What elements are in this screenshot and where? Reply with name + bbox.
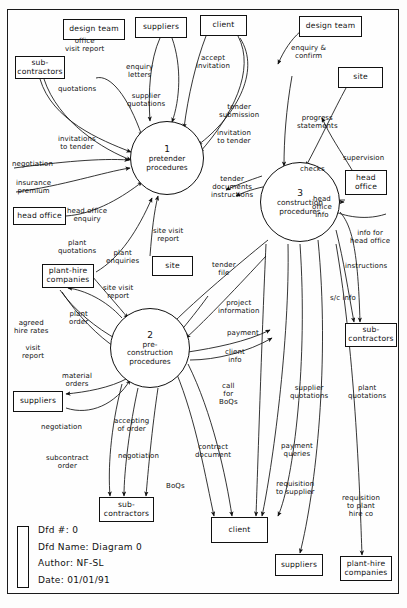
flow-label-instructions: instructions [345,263,387,271]
flow-label-head-office-info: head office info [312,196,332,219]
flow-label-enquiry-letters: enquiry letters [126,64,153,80]
entity-client-bottom[interactable]: client [211,517,268,543]
dfd-canvas: 1 pretender procedures 2 pre- constructi… [0,0,407,608]
flow-label-site-visit-report-upper: site visit report [153,228,183,244]
legend-dfd-number: Dfd #: 0 [38,522,142,539]
entity-plant-hire-companies-bottom[interactable]: plant-hire companies [340,556,392,581]
flow-label-accept-invitation: accept invitation [196,55,230,71]
flow-label-contract-document: contract document [195,444,231,460]
entity-suppliers-left[interactable]: suppliers [13,391,63,412]
flow-label-plant-order: plant order [69,311,88,327]
entity-label: plant-hire companies [344,560,387,577]
flow-label-info-for-head-office: info for head office [350,230,390,246]
flow-label-negotiation-subcontractors-lower: negotiation [118,453,159,461]
legend-rows: Dfd #: 0 Dfd Name: Diagram 0 Author: NF-… [38,522,142,588]
flow-label-insurance-premium: insurance premium [16,180,51,196]
entity-site-middle[interactable]: site [152,256,193,276]
process-1-number: 1 [164,144,170,154]
process-2-number: 2 [147,330,153,340]
flow-label-tender-submission: tender submission [219,104,259,120]
diagram-legend: Dfd #: 0 Dfd Name: Diagram 0 Author: NF-… [17,522,197,594]
flow-label-negotiation-suppliers: negotiation [41,424,82,432]
entity-label: sub- contractors [348,326,393,343]
entity-head-office-right[interactable]: head office [345,170,387,195]
entity-subcontractors-bottom[interactable]: sub- contractors [99,497,154,522]
flow-label-plant-quotations-lower: plant quotations [348,385,386,401]
flow-label-visit-report: visit report [22,345,44,361]
entity-label: client [228,526,250,535]
entity-subcontractors-left[interactable]: sub- contractors [15,56,65,79]
flow-label-invitations-to-tender: invitations to tender [58,136,96,152]
entity-label: suppliers [20,397,56,406]
legend-author: Author: NF-SL [38,555,142,572]
flow-label-quotations: quotations [58,86,96,94]
process-1-label: pretender procedures [146,155,187,171]
entity-label: head office [17,212,62,221]
entity-label: suppliers [281,561,317,570]
flow-label-office-visit-report: office visit report [65,38,104,54]
flow-label-enquiry-and-confirm: enquiry & confirm [291,45,326,61]
entity-suppliers-bottom[interactable]: suppliers [275,554,323,576]
process-2-pre-construction-procedures[interactable]: 2 pre- construction procedures [110,308,190,388]
flow-label-requisition-to-plant-hire-co: requisition to plant hire co [342,495,380,518]
legend-bar [17,526,29,588]
flow-label-negotiation-subcontractors: negotiation [12,161,53,169]
flow-label-progress-statements: progress statements [297,115,338,131]
flow-label-supplier-quotations-lower: supplier quotations [290,385,328,401]
flow-label-head-office-enquiry: head office enquiry [67,208,107,224]
flow-label-sc-info: s/c info [330,295,356,303]
flow-label-agreed-hire-rates: agreed hire rates [14,320,49,336]
flow-label-call-for-boqs: call for BoQs [219,383,238,406]
entity-label: plant-hire companies [46,267,89,284]
entity-label: site [353,73,368,82]
flow-label-material-orders: material orders [62,373,92,389]
flow-label-plant-quotations: plant quotations [58,240,96,256]
entity-client-top[interactable]: client [200,15,247,36]
entity-label: client [212,21,234,30]
process-1-pretender-procedures[interactable]: 1 pretender procedures [130,121,204,195]
legend-date: Date: 01/01/91 [38,572,142,589]
flow-label-client-info: client info [225,349,245,365]
entity-head-office-left[interactable]: head office [13,207,66,225]
flow-label-plant-enquiries: plant enquiries [106,250,139,266]
process-2-label: pre- construction procedures [127,341,173,366]
entity-suppliers-top[interactable]: suppliers [135,17,187,38]
flow-label-boqs: BoQs [166,483,185,491]
flow-label-invitation-to-tender: invitation to tender [217,130,251,146]
legend-dfd-name: Dfd Name: Diagram 0 [38,539,142,556]
entity-plant-hire-companies-left[interactable]: plant-hire companies [42,264,94,288]
entity-design-team-top-right[interactable]: design team [299,16,362,37]
process-3-number: 3 [297,188,303,198]
flow-label-accepting-of-order: accepting of order [114,418,149,434]
flow-label-payment-queries: payment queries [281,443,313,459]
entity-label: sub- contractors [104,501,149,518]
flow-label-tender-documents-instructions: tender documents instructions [211,176,253,199]
flow-label-checks: checks [300,166,325,174]
flow-label-supervision: supervision [343,155,384,163]
entity-label: head office [355,174,377,191]
flow-label-subcontract-order: subcontract order [46,455,89,471]
entity-subcontractors-right[interactable]: sub- contractors [345,323,397,347]
entity-site-top-right[interactable]: site [338,67,383,88]
flow-label-supplier-quotations: supplier quotations [127,93,165,109]
entity-label: suppliers [143,23,179,32]
flow-label-site-visit-report-lower: site visit report [103,285,133,301]
flow-label-payment: payment [227,330,259,338]
entity-label: design team [69,25,119,34]
entity-label: sub- contractors [17,59,62,76]
entity-label: design team [306,22,356,31]
flow-label-requisition-to-supplier: requisition to supplier [276,481,314,497]
flow-label-project-information: project information [218,300,260,316]
entity-label: site [165,262,180,271]
flow-label-tender-file: tender file [212,262,236,278]
